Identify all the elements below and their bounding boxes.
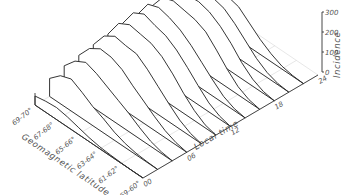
latitude-tick-label: 59-60° xyxy=(119,179,143,195)
incidence-tick-label: 300 xyxy=(325,9,339,17)
time-tick-label: 06 xyxy=(186,151,198,163)
incidence-tick-label: 0 xyxy=(325,69,330,77)
incidence-curves xyxy=(35,0,303,178)
incidence-axis-title: Incidence xyxy=(332,32,342,78)
latitude-tick-label: 69-70° xyxy=(11,106,35,127)
time-tick-label: 18 xyxy=(273,100,285,112)
time-tick-label: 00 xyxy=(142,177,154,189)
waterfall-chart: 0100200300000612182469-70°67-68°65-66°63… xyxy=(0,0,348,195)
